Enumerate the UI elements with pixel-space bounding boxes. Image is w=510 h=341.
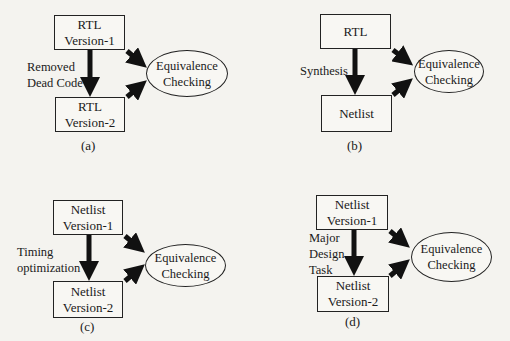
diagram-d-transform-label: Major Design Task [309, 230, 344, 278]
diagram-a-rtl-version-2-box: RTL Version-2 [55, 97, 125, 132]
diagram-d-netlist-version-2-box: Netlist Version-2 [317, 276, 389, 312]
diagram-a-rtl-version-1-box: RTL Version-1 [54, 15, 125, 50]
box-line: Version-1 [64, 33, 115, 49]
diagram-b-rtl-box: RTL [320, 14, 391, 49]
diagram-d-netlist-version-1-box: Netlist Version-1 [316, 195, 388, 230]
diagram-d-caption: (d) [345, 314, 360, 330]
diagram-a-arrows [90, 49, 140, 97]
compare-arrow-top [127, 51, 140, 62]
diagram-b-equivalence-checking-ellipse: Equivalence Checking [414, 50, 484, 93]
diagram-c-equivalence-checking-ellipse: Equivalence Checking [145, 244, 226, 287]
box-line: RTL [78, 17, 102, 33]
diagram-a-caption: (a) [81, 138, 95, 154]
diagram-b-arrows [355, 48, 406, 95]
diagram-c-transform-label: Timing optimization [17, 244, 80, 276]
diagram-a-equivalence-checking-ellipse: Equivalence Checking [146, 50, 228, 97]
diagram-c-caption: (c) [80, 319, 94, 335]
diagram-c-netlist-version-2-box: Netlist Version-2 [53, 281, 123, 318]
diagram-b-transform-label: Synthesis [300, 63, 348, 79]
diagram-b-caption: (b) [347, 138, 362, 154]
diagram-d-arrows [354, 229, 403, 276]
diagram-c-arrows [89, 234, 138, 281]
diagram-d-equivalence-checking-ellipse: Equivalence Checking [411, 232, 492, 282]
diagram-c-netlist-version-1-box: Netlist Version-1 [53, 200, 123, 235]
diagram-b-netlist-box: Netlist [321, 95, 392, 132]
compare-arrow-bottom [127, 86, 140, 97]
diagram-a-transform-label: Removed Dead Code [27, 59, 83, 91]
